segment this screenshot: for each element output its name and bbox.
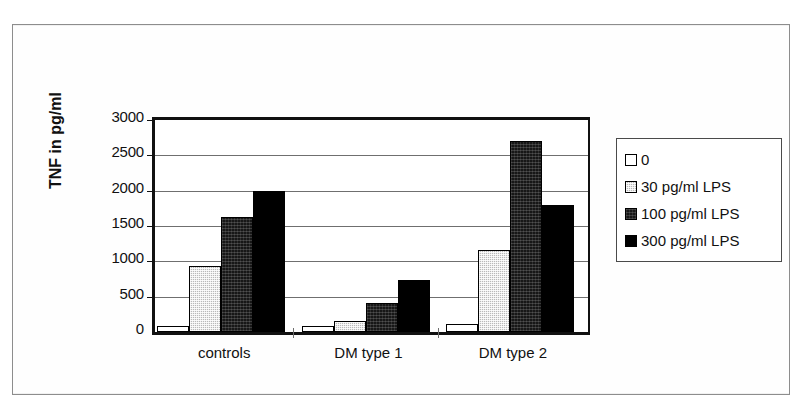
dark-swatch — [625, 208, 637, 220]
y-axis-tick-label: 500 — [120, 286, 144, 301]
bar — [221, 217, 253, 332]
legend-item-label: 100 pg/ml LPS — [641, 206, 739, 221]
bar — [302, 326, 334, 332]
category-separator-tick — [438, 328, 439, 338]
y-axis-tick-label: 1000 — [111, 250, 144, 265]
y-axis-tick-label: 0 — [136, 321, 144, 336]
bar — [157, 326, 189, 332]
bar — [366, 303, 398, 332]
y-axis-tick-label: 3000 — [111, 109, 144, 124]
x-axis-tick-labels: controlsDM type 1DM type 2 — [152, 344, 590, 368]
bar — [542, 205, 574, 332]
y-axis-tick — [147, 226, 153, 227]
bar-group — [446, 120, 574, 332]
legend-item: 300 pg/ml LPS — [625, 227, 775, 254]
bar-group — [157, 120, 285, 332]
bar — [510, 141, 542, 333]
bar-group — [302, 120, 430, 332]
y-axis-tick — [147, 191, 153, 192]
legend-item-label: 30 pg/ml LPS — [641, 179, 731, 194]
y-axis-tick-label: 2000 — [111, 180, 144, 195]
legend-item: 100 pg/ml LPS — [625, 200, 775, 227]
bar — [253, 191, 285, 332]
x-axis-category-label: DM type 2 — [441, 344, 585, 362]
bar — [446, 324, 478, 332]
white-swatch — [625, 154, 637, 166]
legend-item-label: 300 pg/ml LPS — [641, 233, 739, 248]
chart-legend: 030 pg/ml LPS100 pg/ml LPS300 pg/ml LPS — [616, 138, 782, 262]
y-axis-tick-labels: 050010001500200025003000 — [78, 110, 144, 342]
bar — [189, 266, 221, 332]
plot-area — [152, 117, 590, 335]
bar — [398, 280, 430, 332]
legend-item: 30 pg/ml LPS — [625, 173, 775, 200]
legend-item-label: 0 — [641, 152, 649, 167]
y-axis-tick-label: 1500 — [111, 215, 144, 230]
bar — [334, 321, 366, 332]
bar — [478, 250, 510, 332]
x-axis-category-label: controls — [152, 344, 296, 362]
y-axis-title: TNF in pg/ml — [47, 169, 65, 189]
y-axis-tick — [147, 120, 153, 121]
y-axis-tick — [147, 261, 153, 262]
legend-item: 0 — [625, 146, 775, 173]
black-swatch — [625, 235, 637, 247]
y-axis-tick-label: 2500 — [111, 144, 144, 159]
y-axis-tick — [147, 155, 153, 156]
x-axis-category-label: DM type 1 — [296, 344, 440, 362]
gray-swatch — [625, 181, 637, 193]
category-separator-tick — [293, 328, 294, 338]
y-axis-tick — [147, 297, 153, 298]
